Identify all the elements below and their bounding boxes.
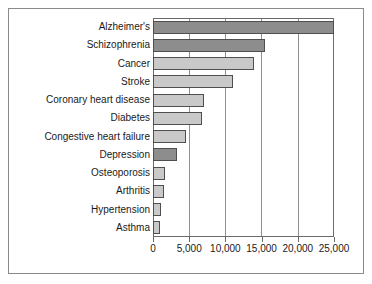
bars-layer [153,18,334,237]
bar-row [153,55,334,73]
bar [153,39,265,52]
x-tick [334,237,335,242]
bar [153,221,160,234]
category-label: Coronary heart disease [10,94,150,106]
bar [153,148,177,161]
bar-row [153,146,334,164]
bar [153,167,165,180]
x-tick [298,237,299,242]
bar-row [153,109,334,127]
category-label: Diabetes [10,112,150,124]
x-tick [262,237,263,242]
x-axis-ticks [153,237,334,242]
bar-row [153,182,334,200]
bar-row [153,36,334,54]
category-label: Congestive heart failure [10,131,150,143]
x-tick-label: 20,000 [283,243,314,255]
bar-row [153,18,334,36]
category-label: Stroke [10,76,150,88]
bar [153,75,233,88]
bar [153,185,164,198]
category-label: Asthma [10,222,150,234]
bar-row [153,91,334,109]
x-tick-label: 5,000 [177,243,202,255]
x-tick [153,237,154,242]
x-tick-label: 15,000 [246,243,277,255]
category-label: Cancer [10,58,150,70]
category-axis-labels: Alzheimer'sSchizophreniaCancerStrokeCoro… [10,18,150,237]
category-label: Depression [10,149,150,161]
bar [153,203,161,216]
bar [153,57,254,70]
bar-row [153,73,334,91]
x-tick-label: 10,000 [210,243,241,255]
bar-chart-figure: Alzheimer'sSchizophreniaCancerStrokeCoro… [0,0,372,284]
bar-row [153,219,334,237]
bar-row [153,128,334,146]
category-label: Alzheimer's [10,21,150,33]
x-tick-label: 25,000 [319,243,350,255]
category-label: Hypertension [10,204,150,216]
x-tick-label: 0 [150,243,156,255]
category-label: Arthritis [10,185,150,197]
x-tick [189,237,190,242]
category-label: Osteoporosis [10,167,150,179]
bar [153,21,334,34]
bar-row [153,201,334,219]
bar [153,94,204,107]
bar-row [153,164,334,182]
x-axis-labels: 05,00010,00015,00020,00025,000 [120,243,365,259]
bar [153,112,202,125]
x-tick [225,237,226,242]
bar [153,130,186,143]
category-label: Schizophrenia [10,39,150,51]
